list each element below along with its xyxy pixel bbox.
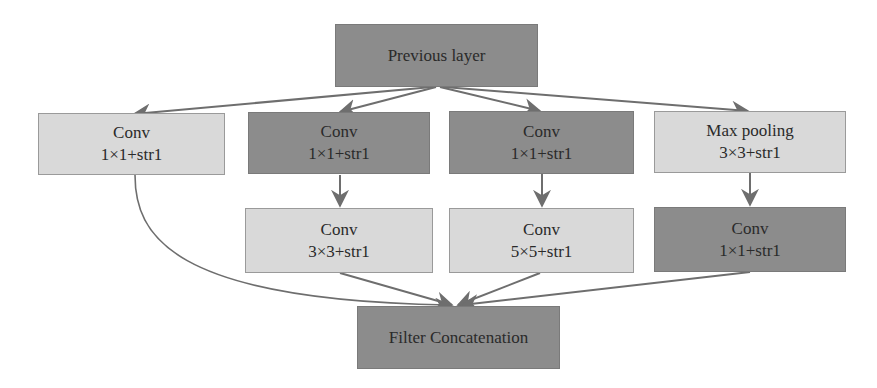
node-op-label: Max pooling [706, 120, 793, 142]
node-branch2-conv-3x3: Conv 3×3+str1 [245, 208, 433, 273]
node-kernel-label: 5×5+str1 [511, 241, 573, 263]
node-filter-concatenation: Filter Concatenation [357, 306, 560, 369]
node-branch1-conv-1x1: Conv 1×1+str1 [38, 113, 225, 175]
node-kernel-label: 1×1+str1 [308, 143, 370, 165]
node-op-label: Conv [523, 219, 560, 241]
node-previous-layer: Previous layer [335, 24, 538, 87]
node-kernel-label: 1×1+str1 [101, 144, 163, 166]
node-branch3-conv-5x5: Conv 5×5+str1 [449, 208, 634, 273]
node-kernel-label: 3×3+str1 [308, 241, 370, 263]
node-op-label: Conv [523, 121, 560, 143]
edge-b4-to-concat [462, 272, 750, 305]
node-label: Previous layer [388, 45, 486, 67]
node-label: Filter Concatenation [389, 327, 528, 349]
node-kernel-label: 1×1+str1 [511, 143, 573, 165]
node-branch2-conv-1x1: Conv 1×1+str1 [248, 112, 430, 174]
node-branch4-conv-1x1: Conv 1×1+str1 [654, 207, 846, 272]
node-kernel-label: 1×1+str1 [719, 240, 781, 262]
node-kernel-label: 3×3+str1 [719, 142, 781, 164]
node-branch3-conv-1x1: Conv 1×1+str1 [449, 111, 634, 174]
node-op-label: Conv [732, 218, 769, 240]
node-branch4-max-pooling: Max pooling 3×3+str1 [654, 111, 846, 173]
node-op-label: Conv [113, 122, 150, 144]
node-op-label: Conv [321, 219, 358, 241]
node-op-label: Conv [321, 121, 358, 143]
inception-module-diagram: Previous layer Conv 1×1+str1 Conv 1×1+st… [0, 0, 877, 388]
